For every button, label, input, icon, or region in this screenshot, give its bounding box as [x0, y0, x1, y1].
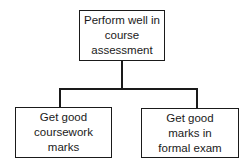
child-1-label-line-2: coursework — [34, 125, 93, 140]
connector-horizontal — [59, 88, 197, 90]
root-label-line-3: assessment — [84, 43, 160, 58]
child-1-label-line-3: marks — [34, 140, 93, 155]
child-2-label-line-3: formal exam — [158, 141, 221, 156]
child-node-formal-exam: Get good marks in formal exam — [141, 108, 239, 158]
root-node-perform-well: Perform well in course assessment — [79, 10, 165, 61]
child-2-label-line-2: marks in — [158, 126, 221, 141]
connector-root-stem — [121, 60, 123, 89]
child-1-label-line-1: Get good — [34, 110, 93, 125]
child-node-coursework: Get good coursework marks — [15, 107, 112, 158]
root-label-line-2: course — [84, 28, 160, 43]
child-2-label-line-1: Get good — [158, 111, 221, 126]
connector-left-drop — [59, 88, 61, 108]
connector-right-drop — [196, 88, 198, 109]
root-label-line-1: Perform well in — [84, 13, 160, 28]
